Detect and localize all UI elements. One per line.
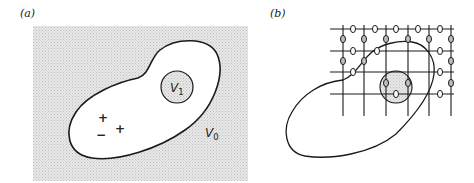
element-ellipse xyxy=(362,35,367,42)
element-ellipse xyxy=(416,25,421,32)
panel-a: (a) V1 + + − V0 xyxy=(20,7,248,181)
element-ellipse xyxy=(394,25,399,32)
element-ellipse xyxy=(384,79,389,86)
element-ellipse xyxy=(406,35,411,42)
element-ellipse xyxy=(394,90,399,97)
discretized-boundary xyxy=(286,41,434,157)
element-ellipse xyxy=(438,68,443,75)
element-ellipse xyxy=(341,57,346,64)
figure-canvas: (a) V1 + + − V0 (b) xyxy=(0,0,474,183)
element-ellipse xyxy=(449,79,454,86)
element-ellipse xyxy=(449,35,454,42)
charge-plus-2: + xyxy=(115,122,125,136)
element-ellipse xyxy=(373,25,378,32)
element-ellipse xyxy=(362,57,367,64)
element-ellipse xyxy=(375,47,380,54)
panel-b: (b) xyxy=(270,7,454,157)
element-ellipse xyxy=(449,57,454,64)
element-ellipse xyxy=(438,25,443,32)
element-ellipse xyxy=(351,47,356,54)
element-ellipse xyxy=(438,90,443,97)
charge-minus: − xyxy=(96,128,106,142)
element-ellipse xyxy=(406,79,411,86)
charge-plus-1: + xyxy=(98,111,108,125)
element-ellipse xyxy=(438,47,443,54)
panel-b-label: (b) xyxy=(270,7,286,20)
element-ellipse xyxy=(427,35,432,42)
element-ellipse xyxy=(351,25,356,32)
element-ellipse xyxy=(351,68,356,75)
element-ellipse xyxy=(384,35,389,42)
panel-a-label: (a) xyxy=(20,7,35,20)
element-ellipse xyxy=(341,35,346,42)
